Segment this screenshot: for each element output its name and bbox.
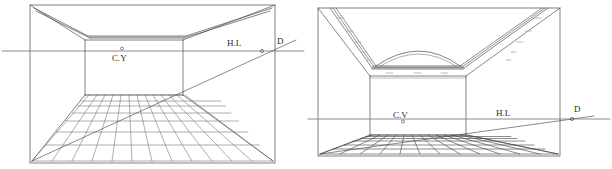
right-floor-transversals — [320, 135, 558, 154]
right-vault-arch — [376, 51, 460, 66]
right-horizon-line-label: H.L — [496, 108, 510, 118]
right-diagonal-point-label: D — [574, 104, 581, 114]
left-diagonal-construction-line — [32, 40, 296, 161]
left-floor-transversals — [32, 95, 273, 161]
left-perspective-svg: C.Y H.L D — [0, 0, 306, 169]
panel-vaulted-ceiling-room: C.V H.L D — [306, 0, 612, 169]
left-horizon-line-label: H.L — [227, 38, 241, 48]
left-diagonal-point-label: D — [277, 36, 284, 46]
panel-flat-ceiling-room: C.Y H.L D — [0, 0, 306, 169]
right-right-soffit-ticks — [506, 18, 541, 60]
right-center-of-vision-marker — [402, 120, 405, 123]
right-outer-frame — [318, 8, 560, 156]
perspective-drawing-sheet: C.Y H.L D — [0, 0, 612, 169]
right-diagonal-construction-line — [320, 116, 594, 154]
right-vault-arch-inner — [379, 54, 457, 67]
left-ceiling-orthogonals — [30, 5, 275, 40]
right-perspective-svg: C.V H.L D — [306, 0, 612, 169]
right-floor-orthogonals — [320, 135, 558, 154]
left-center-of-vision-label: C.Y — [112, 53, 127, 63]
left-center-of-vision-marker — [121, 47, 124, 50]
right-vault-springing-band — [372, 66, 464, 69]
right-center-of-vision-label: C.V — [393, 110, 408, 120]
left-floor-orthogonals — [32, 95, 273, 161]
left-ceiling-cornice — [34, 8, 272, 38]
